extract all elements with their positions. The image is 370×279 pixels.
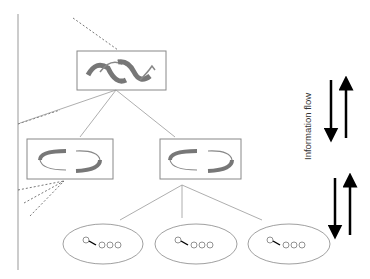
bottom-node (155, 224, 237, 264)
information-flow-arrows (331, 80, 350, 235)
bottom-node (248, 224, 330, 264)
information-flow-label: Information flow (302, 80, 313, 160)
dotted-connectors (18, 18, 118, 216)
mid-node-left (27, 139, 113, 179)
top-node (77, 51, 166, 90)
bottom-node (63, 224, 143, 264)
mid-node-right (160, 139, 241, 179)
hierarchy-diagram (0, 0, 370, 279)
